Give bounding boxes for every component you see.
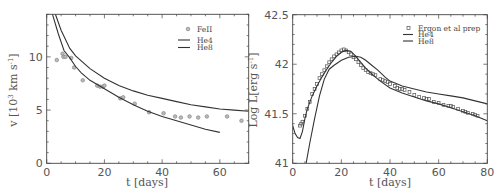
y-tick-label: 0 [36, 157, 43, 170]
data-point [328, 61, 331, 64]
data-point [196, 116, 200, 120]
y-tick-label: 42 [275, 58, 289, 71]
data-point [240, 119, 244, 123]
luminosity-y-axis-label: Log L[erg s-1] [247, 52, 260, 127]
luminosity-tick-labels: 0204060804141.54242.5 [264, 9, 494, 180]
legend-label-he8: He8 [197, 43, 213, 52]
y-tick-label: 41.5 [264, 108, 289, 121]
model-curve-he8 [55, 14, 248, 111]
x-tick-label: 60 [432, 166, 446, 179]
data-point [188, 115, 192, 119]
y-tick-label: 41 [275, 157, 289, 170]
legend-label-he8: He8 [418, 37, 434, 46]
velocity-axis-ticks [47, 14, 249, 163]
luminosity-x-axis-label: t [days] [369, 176, 411, 189]
x-tick-label: 0 [289, 166, 296, 179]
legend-marker-feii [186, 27, 190, 31]
data-point [205, 115, 209, 119]
velocity-plot-frame [47, 14, 249, 163]
data-point [64, 55, 68, 59]
legend-label-feii: FeII [197, 25, 212, 34]
data-point [408, 91, 411, 94]
data-point [413, 94, 416, 97]
velocity-plot-area [53, 14, 249, 132]
luminosity-legend: Ergon et al prep He4 He8 [403, 24, 481, 46]
velocity-x-axis-label: t [days] [126, 176, 168, 189]
data-point [179, 116, 183, 120]
y-tick-label: 42.5 [264, 9, 289, 22]
data-point [225, 115, 229, 119]
data-point [103, 84, 107, 88]
data-point [162, 111, 166, 115]
x-tick-label: 20 [334, 166, 348, 179]
data-point [55, 58, 59, 62]
model-curve-he4 [293, 50, 488, 138]
model-curve-he4 [53, 14, 220, 132]
velocity-legend: FeII He4 He8 [178, 25, 213, 53]
data-point [173, 115, 177, 119]
legend-marker-ergon [407, 27, 410, 30]
x-tick-label: 80 [480, 166, 494, 179]
data-point [81, 78, 85, 82]
velocity-tick-labels: 02040600510 [29, 51, 227, 179]
model-curve-he8 [306, 56, 487, 163]
y-tick-label: 10 [29, 51, 43, 64]
x-tick-label: 20 [97, 166, 111, 179]
y-tick-label: 5 [36, 104, 43, 117]
x-tick-label: 0 [43, 166, 50, 179]
x-tick-label: 60 [213, 166, 227, 179]
velocity-y-axis-label: v [103 km s-1] [7, 53, 20, 127]
luminosity-plot-area [293, 48, 488, 163]
figure: 02040600510 t [days] v [103 km s-1] FeII… [0, 0, 499, 193]
luminosity-panel: 0204060804141.54242.5 t [days] Log L[erg… [247, 9, 494, 189]
velocity-panel: 02040600510 t [days] v [103 km s-1] FeII… [7, 14, 249, 189]
